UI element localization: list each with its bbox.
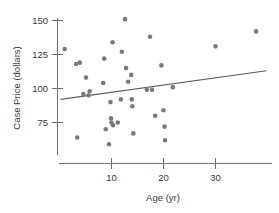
scatter-points xyxy=(62,17,258,147)
data-point xyxy=(129,73,134,78)
plot-area: 150 125 100 75 Case Price (dollars) 10 2… xyxy=(0,0,279,213)
data-point xyxy=(129,97,134,102)
data-point xyxy=(213,44,218,49)
data-point xyxy=(130,104,135,109)
data-point xyxy=(109,116,114,121)
data-point xyxy=(101,81,106,86)
data-point xyxy=(162,124,167,129)
data-point xyxy=(84,75,89,80)
data-point xyxy=(120,49,125,54)
y-tick-label-125: 125 xyxy=(32,49,48,60)
data-point xyxy=(107,142,112,147)
data-point xyxy=(161,108,166,113)
data-point xyxy=(126,79,131,84)
x-axis-title: Age (yr) xyxy=(146,192,180,203)
data-point xyxy=(102,56,107,61)
data-point xyxy=(163,138,168,143)
data-point xyxy=(86,93,91,98)
data-point xyxy=(103,127,108,132)
data-point xyxy=(123,17,128,22)
x-tick-label-20: 20 xyxy=(158,172,169,183)
data-point xyxy=(159,63,164,68)
data-point xyxy=(153,113,158,118)
data-point xyxy=(108,100,113,105)
data-point xyxy=(150,88,155,93)
data-point xyxy=(124,66,129,71)
x-tick-label-10: 10 xyxy=(106,172,117,183)
data-point xyxy=(254,29,259,34)
y-axis-title: Case Price (dollars) xyxy=(11,46,22,129)
y-tick-label-75: 75 xyxy=(37,117,48,128)
data-point xyxy=(111,123,116,128)
data-point xyxy=(110,40,115,45)
data-point xyxy=(171,85,176,90)
x-tick-label-30: 30 xyxy=(210,172,221,183)
regression-line xyxy=(61,71,267,100)
scatter-chart: 150 125 100 75 Case Price (dollars) 10 2… xyxy=(0,0,279,213)
data-point xyxy=(62,47,67,52)
data-point xyxy=(145,88,150,93)
data-point xyxy=(131,131,136,136)
data-point xyxy=(87,89,92,94)
y-tick-label-150: 150 xyxy=(32,15,48,26)
data-point xyxy=(119,97,124,102)
data-point xyxy=(148,35,153,40)
data-point xyxy=(115,120,120,125)
data-point xyxy=(81,92,86,97)
y-tick-label-100: 100 xyxy=(32,83,48,94)
data-point xyxy=(77,60,82,65)
data-point xyxy=(75,135,80,140)
